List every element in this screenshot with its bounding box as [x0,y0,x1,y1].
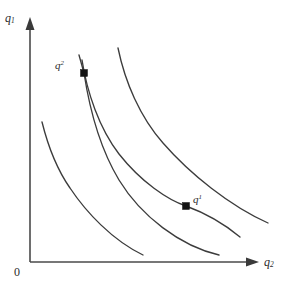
y-axis-label-subscript: 1 [11,16,15,25]
curve-indifference-through-q2-q1 [82,60,240,237]
point-label-q2: q2 [55,60,64,71]
point-label-q1-superscript: 1 [199,193,202,200]
point-markers-group [81,70,190,210]
point-label-q1: q1 [193,194,202,205]
figure-canvas [0,0,286,292]
axes-group [26,17,260,267]
indifference-curve-figure: q1 q2 0 q2 q1 [0,0,286,292]
y-axis-arrowhead-icon [26,17,35,30]
origin-label: 0 [14,266,20,278]
curves-group [42,48,268,255]
x-axis-label: q2 [264,256,274,269]
curve-innermost [42,122,143,255]
x-axis-label-subscript: 2 [270,260,274,269]
x-axis-arrowhead-icon [246,258,259,267]
marker-point-q1 [183,203,190,210]
point-label-q2-superscript: 2 [61,59,64,66]
marker-point-q2 [81,70,88,77]
y-axis-label: q1 [5,12,15,25]
